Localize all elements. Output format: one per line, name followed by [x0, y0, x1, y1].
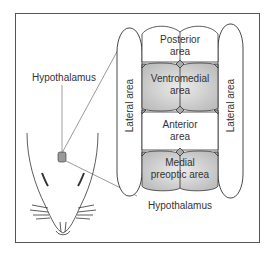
anterior-label-2: area [142, 131, 218, 143]
hypothalamus-marker [58, 152, 66, 162]
callout-label-hypothalamus: Hypothalamus [32, 72, 96, 84]
rat-head-icon [27, 133, 98, 235]
anterior-label-1: Anterior [142, 119, 218, 131]
medial-preoptic-label-1: Medial [142, 157, 218, 169]
medial-preoptic-label-2: preoptic area [142, 169, 218, 181]
posterior-label-1: Posterior [142, 34, 218, 46]
ventromedial-label-2: area [142, 85, 218, 97]
bottom-label-hypothalamus: Hypothalamus [142, 200, 218, 212]
posterior-label-2: area [142, 46, 218, 58]
ventromedial-label-1: Ventromedial [142, 73, 218, 85]
callout-line-top [62, 48, 119, 153]
lateral-area-left-label: Lateral area [124, 76, 135, 136]
lateral-area-right-label: Lateral area [225, 76, 236, 136]
